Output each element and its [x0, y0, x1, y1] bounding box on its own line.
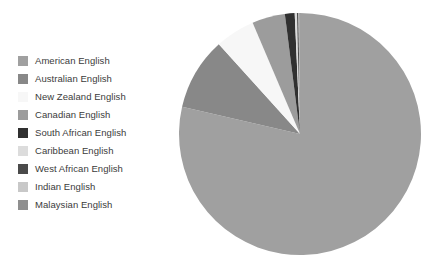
- legend-item[interactable]: Indian English: [18, 178, 168, 196]
- legend-item[interactable]: New Zealand English: [18, 88, 168, 106]
- legend-swatch-icon: [18, 182, 28, 192]
- legend-item[interactable]: Canadian English: [18, 106, 168, 124]
- legend-item-label: South African English: [35, 124, 126, 142]
- legend-item[interactable]: Caribbean English: [18, 142, 168, 160]
- legend-item-label: New Zealand English: [35, 88, 126, 106]
- legend-swatch-icon: [18, 56, 28, 66]
- legend-item[interactable]: South African English: [18, 124, 168, 142]
- legend-item-label: Caribbean English: [35, 142, 113, 160]
- pie-chart-svg: American EnglishAustralian EnglishNew Ze…: [178, 12, 422, 257]
- legend-item-label: West African English: [35, 160, 123, 178]
- pie-chart-figure: American EnglishAustralian EnglishNew Ze…: [0, 0, 443, 269]
- chart-legend: American EnglishAustralian EnglishNew Ze…: [18, 52, 168, 214]
- legend-item[interactable]: Malaysian English: [18, 196, 168, 214]
- legend-swatch-icon: [18, 74, 28, 84]
- legend-item[interactable]: Australian English: [18, 70, 168, 88]
- legend-swatch-icon: [18, 164, 28, 174]
- legend-swatch-icon: [18, 92, 28, 102]
- legend-swatch-icon: [18, 128, 28, 138]
- legend-item-label: American English: [35, 52, 110, 70]
- legend-item-label: Australian English: [35, 70, 112, 88]
- legend-item[interactable]: West African English: [18, 160, 168, 178]
- legend-swatch-icon: [18, 110, 28, 120]
- legend-item-label: Canadian English: [35, 106, 110, 124]
- legend-item-label: Indian English: [35, 178, 95, 196]
- legend-item-label: Malaysian English: [35, 196, 112, 214]
- legend-swatch-icon: [18, 146, 28, 156]
- legend-item[interactable]: American English: [18, 52, 168, 70]
- pie-chart-plot-area: American EnglishAustralian EnglishNew Ze…: [178, 12, 422, 257]
- legend-swatch-icon: [18, 200, 28, 210]
